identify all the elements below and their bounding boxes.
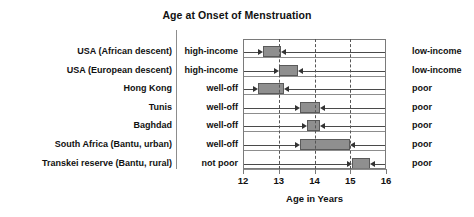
row-category-label: South Africa (Bantu, urban) — [0, 139, 172, 149]
row-left-condition-label: well-off — [178, 83, 238, 93]
row-right-condition-label: poor — [412, 83, 432, 93]
x-tick-15 — [350, 169, 351, 174]
x-tick-label-15: 15 — [338, 175, 362, 186]
row-left-condition-label: not poor — [178, 158, 238, 168]
row-category-label: Baghdad — [0, 120, 172, 130]
gridline-15 — [350, 39, 351, 169]
row-right-condition-label: poor — [412, 120, 432, 130]
x-axis-title: Age in Years — [243, 193, 386, 204]
row-left-condition-label: well-off — [178, 102, 238, 112]
row-left-condition-label: well-off — [178, 120, 238, 130]
x-tick-label-16: 16 — [374, 175, 398, 186]
row-right-condition-label: low-income — [412, 65, 462, 75]
row-category-label: Hong Kong — [0, 83, 172, 93]
gridline-13 — [279, 39, 280, 169]
row-category-label: USA (African descent) — [0, 46, 172, 56]
x-tick-label-13: 13 — [267, 175, 291, 186]
chart-title: Age at Onset of Menstruation — [0, 9, 474, 21]
row-right-condition-label: poor — [412, 102, 432, 112]
x-tick-16 — [386, 169, 387, 174]
row-right-condition-label: poor — [412, 139, 432, 149]
x-tick-label-14: 14 — [303, 175, 327, 186]
row-category-label: USA (European descent) — [0, 65, 172, 75]
x-tick-13 — [279, 169, 280, 174]
row-left-condition-label: high-income — [178, 46, 238, 56]
gridline-14 — [315, 39, 316, 169]
label-divider-rule — [176, 30, 177, 169]
x-tick-label-12: 12 — [231, 175, 255, 186]
row-left-condition-label: well-off — [178, 139, 238, 149]
row-right-condition-label: low-income — [412, 46, 462, 56]
x-tick-14 — [315, 169, 316, 174]
row-category-label: Transkei reserve (Bantu, rural) — [0, 158, 172, 168]
chart-figure: Age at Onset of Menstruation USA (Africa… — [0, 0, 474, 217]
row-right-condition-label: poor — [412, 158, 432, 168]
x-tick-12 — [243, 169, 244, 174]
row-left-condition-label: high-income — [178, 65, 238, 75]
row-category-label: Tunis — [0, 102, 172, 112]
